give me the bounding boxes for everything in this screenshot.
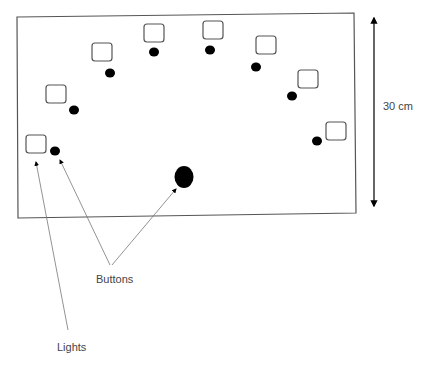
light-6 (256, 36, 276, 54)
light-5 (203, 21, 223, 39)
light-8 (326, 122, 346, 140)
button-large[interactable] (175, 166, 194, 188)
button-1[interactable] (50, 147, 60, 156)
button-7[interactable] (287, 92, 297, 101)
button-3[interactable] (105, 69, 115, 78)
lights-pointer (36, 162, 68, 330)
lights-group (26, 21, 346, 153)
light-1 (26, 135, 46, 153)
light-2 (46, 85, 66, 103)
button-6[interactable] (251, 63, 261, 72)
buttons-group (50, 46, 322, 189)
diagram-canvas (0, 0, 429, 368)
light-7 (298, 70, 318, 88)
lights-label: Lights (57, 341, 86, 353)
button-4[interactable] (149, 48, 159, 57)
buttons-pointer-right (112, 189, 176, 265)
button-5[interactable] (205, 46, 215, 55)
button-2[interactable] (69, 106, 79, 115)
button-8[interactable] (312, 137, 322, 146)
buttons-label: Buttons (96, 273, 133, 285)
dimension-label: 30 cm (383, 100, 413, 112)
buttons-pointer-left (60, 160, 110, 265)
light-3 (92, 43, 112, 61)
light-4 (144, 24, 164, 42)
